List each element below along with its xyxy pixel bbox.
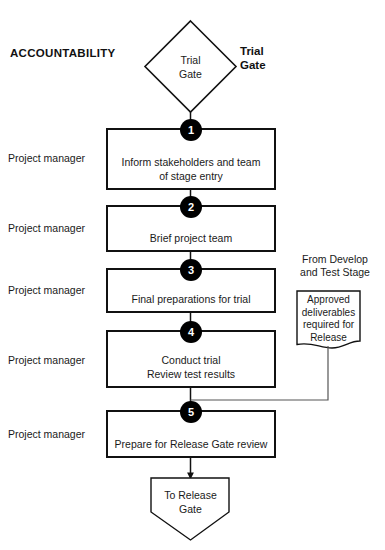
- document-label-line1: Approved: [296, 294, 361, 307]
- document-label-line3: required for: [296, 319, 361, 332]
- to-release-gate-label-line2: Gate: [151, 502, 230, 516]
- step-number-badge-1: 1: [180, 119, 202, 141]
- step-number-badge-2: 2: [180, 196, 202, 218]
- approved-deliverables-document[interactable]: Approved deliverables required for Relea…: [296, 290, 361, 348]
- role-label-step-2: Project manager: [8, 222, 102, 235]
- role-label-step-1: Project manager: [8, 152, 102, 165]
- process-text-step-5-line1: Prepare for Release Gate review: [108, 437, 274, 451]
- trial-gate-side-label: Trial Gate: [240, 44, 266, 72]
- document-label-line4: Release: [296, 332, 361, 345]
- trial-gate-label-line2: Gate: [145, 67, 236, 81]
- process-box-step-5[interactable]: 5 Prepare for Release Gate review: [106, 410, 276, 458]
- trial-gate-node[interactable]: Trial Gate: [145, 21, 236, 112]
- role-label-step-5: Project manager: [8, 428, 102, 441]
- process-text-step-4-line2: Review test results: [108, 367, 274, 381]
- role-label-step-4: Project manager: [8, 354, 102, 367]
- process-box-step-1[interactable]: 1 Inform stakeholders and team of stage …: [106, 128, 276, 190]
- accountability-heading: ACCOUNTABILITY: [10, 47, 116, 59]
- trial-gate-side-label-line2: Gate: [240, 58, 266, 72]
- to-release-gate-node[interactable]: To Release Gate: [151, 478, 230, 540]
- trial-gate-label-line1: Trial: [145, 53, 236, 67]
- document-source-caption-line2: and Test Stage: [288, 266, 382, 279]
- to-release-gate-label: To Release Gate: [151, 488, 230, 516]
- step-number-badge-5: 5: [180, 401, 202, 423]
- process-text-step-1-line1: Inform stakeholders and team: [108, 155, 274, 169]
- role-label-step-3: Project manager: [8, 284, 102, 297]
- document-label-line2: deliverables: [296, 307, 361, 320]
- trial-gate-label: Trial Gate: [145, 53, 236, 81]
- process-text-step-1-line2: of stage entry: [108, 169, 274, 183]
- process-text-step-4-line1: Conduct trial: [108, 353, 274, 367]
- step-number-badge-3: 3: [180, 259, 202, 281]
- document-label: Approved deliverables required for Relea…: [296, 294, 361, 344]
- process-text-step-2-line1: Brief project team: [108, 231, 274, 245]
- process-box-step-4[interactable]: 4 Conduct trial Review test results: [106, 330, 276, 388]
- to-release-gate-label-line1: To Release: [151, 488, 230, 502]
- document-source-caption-line1: From Develop: [288, 253, 382, 266]
- process-box-step-2[interactable]: 2 Brief project team: [106, 205, 276, 252]
- document-source-caption: From Develop and Test Stage: [288, 253, 382, 279]
- trial-gate-side-label-line1: Trial: [240, 44, 266, 58]
- process-text-step-3-line1: Final preparations for trial: [108, 292, 274, 306]
- step-number-badge-4: 4: [180, 321, 202, 343]
- process-box-step-3[interactable]: 3 Final preparations for trial: [106, 268, 276, 313]
